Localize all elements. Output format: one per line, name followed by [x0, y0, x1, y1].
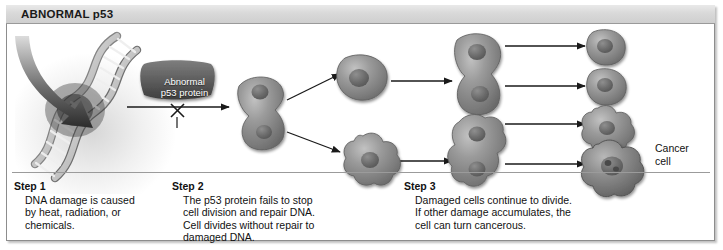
abnormal-p53-protein-label: Abnormal p53 protein [150, 71, 219, 102]
blocked-x-icon [171, 104, 184, 117]
stage3-dividing-cell-lower [448, 115, 506, 187]
stage2-lobed-cell [344, 133, 401, 185]
stage2-round-cell [337, 55, 387, 100]
caption-step-2: Step 2 The p53 protein fails to stop cel… [172, 180, 387, 244]
final-cell-2 [587, 69, 627, 105]
final-cell-1 [587, 30, 626, 65]
arrow-split-upper [287, 74, 340, 100]
cancer-cell-label: Cancer cell [655, 142, 689, 167]
step-1-body: DNA damage is caused by heat, radiation,… [25, 194, 174, 232]
stage3-dividing-cell-upper [455, 34, 501, 115]
figure-abnormal-p53: ABNORMAL p53 [0, 0, 723, 250]
step-2-body: The p53 protein fails to stop cell divis… [183, 194, 387, 244]
figure-titlebar: ABNORMAL p53 [6, 5, 715, 24]
caption-divider [12, 172, 710, 173]
dna-double-helix [35, 36, 137, 178]
protein-label-line1: Abnormal [164, 76, 205, 87]
step-3-body: Damaged cells continue to divide. If oth… [415, 194, 664, 232]
caption-step-3: Step 3 Damaged cells continue to divide.… [404, 180, 664, 231]
step-2-heading: Step 2 [172, 180, 387, 193]
stage1-dividing-cell [238, 77, 285, 150]
step-1-heading: Step 1 [14, 180, 174, 193]
figure-title: ABNORMAL p53 [21, 8, 113, 20]
caption-step-1: Step 1 DNA damage is caused by heat, rad… [14, 180, 174, 231]
arrow-split-lower [287, 132, 340, 152]
step-3-heading: Step 3 [404, 180, 664, 193]
protein-label-line2: p53 protein [161, 87, 209, 98]
